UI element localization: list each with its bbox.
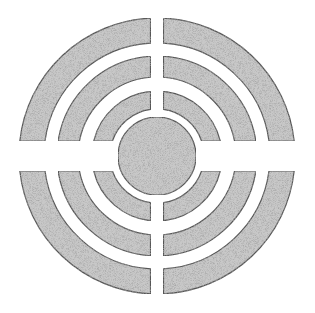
rings-diagram — [0, 0, 315, 313]
concentric-rings-figure — [0, 0, 315, 313]
center-disk — [118, 117, 196, 195]
